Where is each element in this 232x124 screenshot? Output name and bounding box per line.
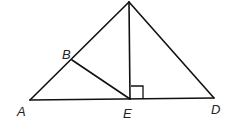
label-d: D	[211, 102, 220, 117]
segment-apex-e-altitude	[129, 2, 130, 99]
segment-b-e	[72, 60, 130, 99]
label-a: A	[16, 104, 26, 119]
right-angle-marker	[131, 86, 143, 99]
segment-apex-d	[129, 2, 214, 98]
label-e: E	[123, 106, 132, 121]
segment-a-d	[30, 98, 214, 100]
segment-a-apex	[30, 2, 129, 100]
label-b: B	[62, 47, 71, 62]
geometry-diagram: A B E D	[0, 0, 232, 124]
